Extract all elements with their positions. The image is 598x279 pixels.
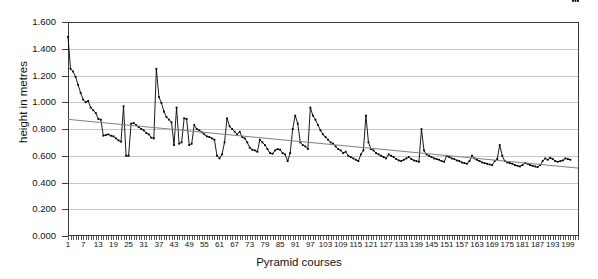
data-point [532, 165, 534, 167]
data-point [264, 144, 266, 146]
data-point [547, 159, 549, 161]
data-point [559, 160, 561, 162]
data-point [315, 119, 317, 121]
data-point [100, 119, 102, 121]
data-point [443, 161, 445, 163]
y-tick-mark [62, 156, 68, 157]
data-point [463, 162, 465, 164]
series-layer [0, 0, 598, 279]
data-point [350, 156, 352, 158]
data-point [287, 160, 289, 162]
data-point [193, 124, 195, 126]
data-point [405, 158, 407, 160]
y-tick-mark [62, 102, 68, 103]
data-point [577, 0, 579, 2]
data-point [327, 139, 329, 141]
data-point [340, 150, 342, 152]
data-point [297, 123, 299, 125]
y-tick-mark [62, 129, 68, 130]
data-point [92, 109, 94, 111]
data-point [70, 68, 72, 70]
data-point [183, 117, 185, 119]
data-point [431, 156, 433, 158]
data-point [284, 154, 286, 156]
data-point [178, 143, 180, 145]
data-point [380, 155, 382, 157]
data-point [113, 135, 115, 137]
data-point [330, 141, 332, 143]
data-point [277, 148, 279, 150]
data-point [413, 160, 415, 162]
y-tick-mark [62, 22, 68, 23]
data-point [385, 158, 387, 160]
data-point [572, 0, 574, 2]
data-point [400, 160, 402, 162]
data-point [383, 156, 385, 158]
data-point [82, 99, 84, 101]
data-point [206, 135, 208, 137]
data-point [509, 162, 511, 164]
data-point [542, 160, 544, 162]
data-point [517, 165, 519, 167]
data-point [304, 145, 306, 147]
data-point [456, 160, 458, 162]
data-point [436, 158, 438, 160]
data-point [421, 128, 423, 130]
data-point [481, 162, 483, 164]
data-point [120, 141, 122, 143]
data-point [143, 129, 145, 131]
data-line [68, 37, 570, 167]
data-point [163, 111, 165, 113]
data-point [181, 141, 183, 143]
data-point [246, 141, 248, 143]
data-point [130, 123, 132, 125]
data-point [365, 115, 367, 117]
data-point [393, 156, 395, 158]
data-point [410, 158, 412, 160]
data-point [537, 166, 539, 168]
data-point [95, 112, 97, 114]
data-point [85, 101, 87, 103]
data-point [491, 164, 493, 166]
data-point [123, 105, 125, 107]
data-point [466, 163, 468, 165]
data-point [282, 152, 284, 154]
data-point [128, 155, 130, 157]
data-point [438, 159, 440, 161]
data-point [148, 133, 150, 135]
data-point [289, 152, 291, 154]
data-point [408, 156, 410, 158]
data-point [231, 128, 233, 130]
data-point [390, 155, 392, 157]
data-point [363, 150, 365, 152]
y-tick-mark [62, 236, 68, 237]
data-point [534, 166, 536, 168]
data-point [219, 158, 221, 160]
data-point [229, 125, 231, 127]
data-point [208, 136, 210, 138]
data-point [355, 159, 357, 161]
data-point [388, 154, 390, 156]
data-point [337, 148, 339, 150]
data-point [191, 143, 193, 145]
data-point [458, 160, 460, 162]
data-point [501, 155, 503, 157]
data-point [198, 129, 200, 131]
data-point [453, 158, 455, 160]
data-point [267, 148, 269, 150]
data-point [72, 71, 74, 73]
data-point [294, 115, 296, 117]
data-point [403, 159, 405, 161]
data-point [234, 131, 236, 133]
data-point [302, 144, 304, 146]
y-tick-mark [62, 209, 68, 210]
data-point [145, 132, 147, 134]
data-point [423, 150, 425, 152]
data-point [461, 162, 463, 164]
data-point [564, 158, 566, 160]
data-point [224, 141, 226, 143]
trend-line [68, 119, 578, 168]
data-point [239, 131, 241, 133]
data-point [256, 151, 258, 153]
data-point [317, 124, 319, 126]
